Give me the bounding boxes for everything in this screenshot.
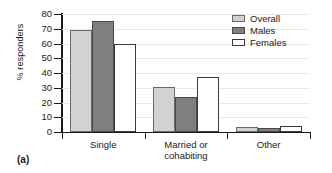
x-axis-label-line: Other [227,139,310,150]
legend: Overall Males Females [232,13,286,49]
y-axis-tick-label: 80 [10,8,52,19]
y-axis-tick-label: 30 [10,82,52,93]
legend-item-overall: Overall [232,13,286,25]
legend-item-males: Males [232,25,286,37]
x-axis-label-line: cohabiting [145,150,228,161]
bar-males-other [258,128,280,132]
x-axis-label-other: Other [227,139,310,150]
x-axis-label-line: Single [62,139,145,150]
y-axis-tick [54,14,61,15]
y-axis-tick-label: 50 [10,52,52,63]
x-axis-label-single: Single [62,139,145,150]
x-axis-label-line: Married or [145,139,228,150]
x-axis-label-married-or-cohabiting: Married orcohabiting [145,139,228,161]
figure-caption: (a) [17,154,29,165]
legend-item-females: Females [232,37,286,49]
legend-label-overall: Overall [250,13,280,25]
y-axis-tick [54,29,61,30]
y-axis-tick [54,44,61,45]
legend-label-females: Females [250,37,286,49]
bar-males-married-or-cohabiting [175,97,197,132]
bar-females-single [114,44,136,133]
bar-males-single [92,21,114,132]
x-axis-tick [145,132,146,139]
legend-swatch-overall-icon [232,15,245,22]
bar-females-other [280,126,302,132]
bar-overall-married-or-cohabiting [153,87,175,132]
y-axis-tick [54,58,61,59]
y-axis-tick-label: 70 [10,23,52,34]
bar-females-married-or-cohabiting [197,77,219,132]
y-axis-tick [54,117,61,118]
y-axis-tick [54,88,61,89]
figure-panel-a: % responders 80706050403020100 SingleMar… [0,0,332,173]
x-axis-tick [227,132,228,139]
y-axis-tick-label: 60 [10,38,52,49]
y-axis-tick-label: 10 [10,111,52,122]
legend-swatch-males-icon [232,27,245,34]
bar-overall-single [70,30,92,132]
y-axis-tick-label: 20 [10,97,52,108]
y-axis-tick [54,73,61,74]
bar-overall-other [236,127,258,132]
y-axis-tick [54,132,61,133]
y-axis-tick-label: 40 [10,67,52,78]
y-axis-tick-label: 0 [10,126,52,137]
legend-label-males: Males [250,25,275,37]
y-axis-tick [54,103,61,104]
legend-swatch-females-icon [232,39,245,46]
x-axis-tick [310,132,311,139]
x-axis-tick [62,132,63,139]
